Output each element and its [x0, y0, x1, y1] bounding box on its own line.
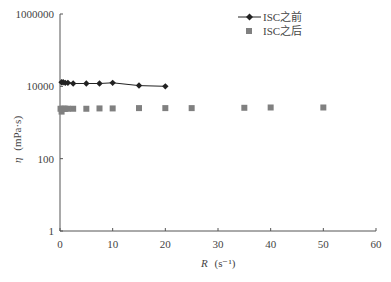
y-tick-label: 100	[38, 153, 55, 165]
y-tick-label: 1000000	[16, 8, 55, 20]
x-tick-label: 10	[107, 238, 119, 250]
diamond-marker-icon	[109, 80, 115, 86]
y-axis-symbol: η	[11, 158, 23, 163]
x-tick-label: 40	[265, 238, 277, 250]
legend-label-after: ISC之后	[263, 24, 302, 37]
square-marker-icon	[268, 104, 274, 110]
y-tick-label: 10000	[27, 80, 55, 92]
diamond-marker-icon	[83, 80, 89, 86]
diamond-marker-icon	[136, 82, 142, 88]
square-marker-icon	[97, 105, 103, 111]
square-marker-icon	[70, 106, 76, 112]
square-marker-icon	[189, 105, 195, 111]
x-tick-label: 20	[160, 238, 172, 250]
chart: 0102030405060 1100100001000000 ISC之前 ISC…	[0, 0, 391, 282]
y-axis-title: η (mPa·s)	[11, 116, 24, 163]
x-tick-label: 60	[371, 238, 383, 250]
x-tick-label: 30	[213, 238, 225, 250]
diamond-marker-icon	[96, 80, 102, 86]
square-marker-icon	[136, 105, 142, 111]
axis-titles: η (mPa·s) R (s⁻¹)	[11, 116, 236, 270]
x-axis-title: R (s⁻¹)	[200, 257, 236, 270]
x-axis: 0102030405060	[57, 228, 382, 250]
diamond-marker-icon	[246, 14, 253, 21]
series-isc-after	[58, 104, 327, 114]
square-marker-icon	[65, 106, 71, 112]
square-marker-icon	[110, 105, 116, 111]
legend: ISC之前 ISC之后	[238, 10, 302, 37]
square-marker-icon	[241, 105, 247, 111]
legend-label-before: ISC之前	[263, 10, 302, 23]
x-axis-unit: (s⁻¹)	[214, 257, 235, 270]
series-isc-before	[58, 79, 168, 90]
diamond-marker-icon	[70, 80, 76, 86]
x-axis-symbol: R	[200, 257, 208, 269]
square-marker-icon	[320, 104, 326, 110]
diamond-marker-icon	[162, 83, 168, 89]
square-marker-icon	[246, 28, 252, 34]
y-axis-unit: (mPa·s)	[11, 116, 24, 151]
y-tick-label: 1	[49, 225, 55, 237]
square-marker-icon	[162, 105, 168, 111]
x-tick-label: 0	[57, 238, 63, 250]
x-tick-label: 50	[318, 238, 330, 250]
square-marker-icon	[83, 106, 89, 112]
